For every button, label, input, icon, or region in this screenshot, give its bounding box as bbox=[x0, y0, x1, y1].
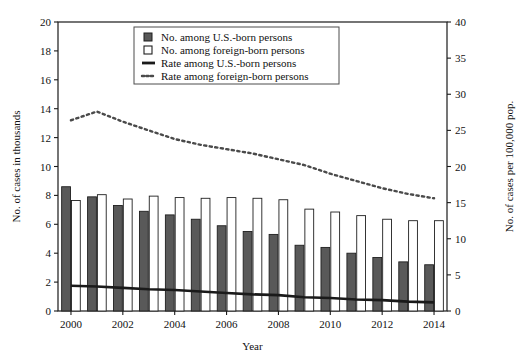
bar-foreign-born-2010 bbox=[331, 212, 340, 311]
x-axis-title: Year bbox=[242, 340, 263, 352]
x-axis-tick-label: 2006 bbox=[216, 318, 239, 330]
y-axis-tick-label: 6 bbox=[46, 218, 52, 230]
bar-us-born-2010 bbox=[321, 247, 330, 311]
bar-us-born-2005 bbox=[191, 219, 200, 311]
y-axis-tick-label: 0 bbox=[46, 305, 52, 317]
y-axis-tick-label: 16 bbox=[40, 74, 52, 86]
bar-foreign-born-2000 bbox=[71, 200, 80, 311]
bar-foreign-born-2002 bbox=[123, 199, 132, 311]
y-axis-tick-label: 8 bbox=[46, 189, 52, 201]
y-axis-tick-label: 4 bbox=[46, 247, 52, 259]
y2-axis-tick-label: 30 bbox=[455, 88, 467, 100]
y-axis-tick-label: 20 bbox=[40, 16, 52, 28]
legend-swatch-hollow-square-icon bbox=[144, 46, 152, 54]
y2-axis-tick-label: 40 bbox=[455, 16, 467, 28]
chart-svg: 0246810121416182005101520253035402000200… bbox=[0, 0, 529, 364]
y2-axis-tick-label: 20 bbox=[455, 161, 467, 173]
y2-axis-title: No. of cases per 100,000 pop. bbox=[503, 101, 515, 233]
legend-layer: No. among U.S.-born personsNo. among for… bbox=[134, 27, 339, 84]
bar-us-born-2003 bbox=[139, 211, 148, 311]
y2-axis-tick-label: 10 bbox=[455, 233, 467, 245]
x-axis-tick-label: 2012 bbox=[371, 318, 393, 330]
bar-foreign-born-2014 bbox=[435, 221, 444, 311]
x-axis-tick-label: 2010 bbox=[319, 318, 342, 330]
bar-us-born-2006 bbox=[217, 226, 226, 311]
bars-layer bbox=[62, 187, 444, 311]
x-axis-tick-label: 2002 bbox=[112, 318, 134, 330]
legend-label-0: No. among U.S.-born persons bbox=[161, 31, 292, 43]
bar-foreign-born-2001 bbox=[97, 195, 106, 311]
legend-swatch-filled-square-icon bbox=[144, 33, 152, 41]
y2-axis-tick-label: 0 bbox=[455, 305, 461, 317]
y2-axis-tick-label: 5 bbox=[455, 269, 461, 281]
chart-figure: 0246810121416182005101520253035402000200… bbox=[0, 0, 529, 364]
bar-us-born-2011 bbox=[347, 253, 356, 311]
bar-us-born-2001 bbox=[88, 197, 97, 311]
line-foreign-born-rate bbox=[71, 112, 434, 199]
legend-label-2: Rate among U.S.-born persons bbox=[161, 57, 296, 69]
bar-us-born-2004 bbox=[165, 215, 174, 311]
bar-us-born-2009 bbox=[295, 245, 304, 311]
bar-us-born-2014 bbox=[425, 265, 434, 311]
bar-foreign-born-2003 bbox=[149, 196, 158, 311]
x-axis-tick-label: 2008 bbox=[267, 318, 290, 330]
y2-axis-tick-label: 35 bbox=[455, 52, 467, 64]
bar-us-born-2000 bbox=[62, 187, 71, 311]
bar-us-born-2007 bbox=[243, 232, 252, 311]
bar-foreign-born-2012 bbox=[383, 219, 392, 311]
bar-foreign-born-2004 bbox=[175, 198, 184, 311]
bar-foreign-born-2013 bbox=[409, 221, 418, 311]
bar-us-born-2008 bbox=[269, 234, 278, 311]
y-axis-tick-label: 18 bbox=[40, 45, 52, 57]
y-axis-tick-label: 2 bbox=[46, 276, 52, 288]
y-axis-title: No. of cases in thousands bbox=[10, 110, 22, 222]
x-axis-tick-label: 2004 bbox=[164, 318, 187, 330]
bar-foreign-born-2011 bbox=[357, 216, 366, 311]
y-axis-tick-label: 14 bbox=[40, 103, 52, 115]
legend-label-1: No. among foreign-born persons bbox=[161, 44, 305, 56]
x-axis-tick-label: 2000 bbox=[60, 318, 83, 330]
y-axis-tick-label: 12 bbox=[40, 132, 51, 144]
bar-foreign-born-2009 bbox=[305, 209, 314, 311]
y-axis-tick-label: 10 bbox=[40, 161, 52, 173]
bar-us-born-2002 bbox=[114, 206, 123, 311]
y2-axis-tick-label: 25 bbox=[455, 124, 467, 136]
bar-foreign-born-2005 bbox=[201, 198, 210, 311]
y2-axis-tick-label: 15 bbox=[455, 197, 467, 209]
x-axis-tick-label: 2014 bbox=[423, 318, 446, 330]
bar-us-born-2012 bbox=[373, 258, 382, 311]
bar-us-born-2013 bbox=[399, 262, 408, 311]
legend-label-3: Rate among foreign-born persons bbox=[161, 70, 309, 82]
